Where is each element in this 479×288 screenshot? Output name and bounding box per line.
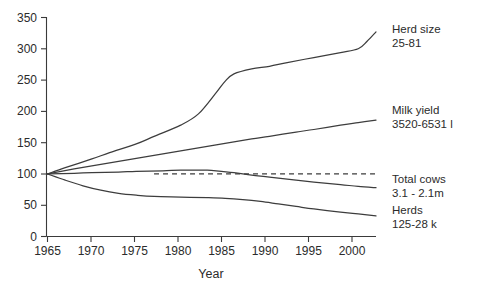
annotation-herds-line2: 125-28 k: [392, 218, 437, 230]
x-axis-ticks: [48, 237, 353, 243]
series-line-total-cows: [48, 170, 377, 188]
y-tick-label-200: 200: [17, 104, 37, 118]
x-tick-label-1985: 1985: [208, 244, 235, 258]
x-tick-label-1975: 1975: [121, 244, 148, 258]
annotation-total-cows: Total cows 3.1 - 2.1m: [392, 173, 446, 199]
y-tick-label-100: 100: [17, 167, 37, 181]
annotation-total-cows-line1: Total cows: [392, 173, 446, 185]
y-tick-label-150: 150: [17, 136, 37, 150]
annotation-total-cows-line2: 3.1 - 2.1m: [392, 187, 444, 199]
x-tick-label-1980: 1980: [165, 244, 192, 258]
annotation-milk-yield-line1: Milk yield: [392, 104, 439, 116]
annotation-herd-size: Herd size 25-81: [392, 23, 441, 49]
series-line-herd-size: [48, 32, 377, 174]
annotation-herds-line1: Herds: [392, 204, 423, 216]
annotation-milk-yield: Milk yield 3520-6531 l: [392, 104, 453, 130]
series-line-herds: [48, 174, 377, 216]
annotation-herds: Herds 125-28 k: [392, 204, 437, 230]
y-tick-label-0: 0: [30, 230, 37, 244]
x-tick-label-1965: 1965: [34, 244, 61, 258]
x-axis-title: Year: [198, 267, 223, 281]
y-tick-label-50: 50: [24, 198, 38, 212]
y-tick-label-350: 350: [17, 11, 37, 25]
line-chart: 350 300 250 200 150 100 50 0 1965 1970 1…: [0, 0, 479, 288]
x-tick-label-1990: 1990: [252, 244, 279, 258]
annotation-herd-size-line1: Herd size: [392, 23, 441, 35]
x-tick-label-1995: 1995: [295, 244, 322, 258]
y-tick-label-300: 300: [17, 42, 37, 56]
x-tick-label-1970: 1970: [78, 244, 105, 258]
annotation-milk-yield-line2: 3520-6531 l: [392, 118, 453, 130]
y-axis-ticks: [41, 18, 47, 237]
chart-page: 350 300 250 200 150 100 50 0 1965 1970 1…: [0, 0, 479, 288]
series-line-milk-yield: [48, 120, 377, 174]
x-tick-label-2000: 2000: [339, 244, 366, 258]
y-tick-label-250: 250: [17, 73, 37, 87]
annotation-herd-size-line2: 25-81: [392, 37, 421, 49]
